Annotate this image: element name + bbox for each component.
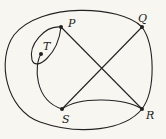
label-p: P	[67, 17, 76, 30]
graph-canvas: P Q T S R	[0, 0, 166, 139]
label-s: S	[62, 113, 70, 126]
vertex-r	[140, 107, 144, 111]
edge-q-r-arc	[142, 27, 152, 109]
edge-s-r	[62, 100, 142, 109]
vertex-s	[60, 107, 64, 111]
edge-t-s	[37, 54, 62, 109]
vertex-p	[59, 25, 63, 29]
label-t: T	[43, 40, 52, 53]
label-r: R	[145, 109, 154, 122]
graph-diagram: P Q T S R	[0, 0, 166, 139]
vertex-q	[140, 25, 144, 29]
label-q: Q	[138, 12, 147, 25]
